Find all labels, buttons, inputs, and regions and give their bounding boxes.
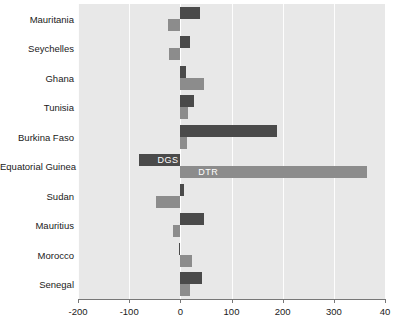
x-tick-label: 40 — [380, 306, 391, 317]
bar-dgs — [180, 213, 204, 225]
plot-area: DGSDTR — [78, 4, 385, 299]
category-label: Tunisia — [0, 102, 74, 113]
bar-dgs — [180, 125, 276, 137]
bar-dgs — [180, 7, 199, 19]
bar-chart: DGSDTR MauritaniaSeychellesGhanaTunisiaB… — [0, 0, 393, 329]
bar-dtr — [180, 78, 204, 90]
x-tick-mark — [232, 299, 233, 303]
category-label: Equatorial Guinea — [0, 161, 74, 172]
x-tick-mark — [78, 299, 79, 303]
bar-dgs — [180, 272, 202, 284]
category-label: Morocco — [0, 249, 74, 260]
gridline--200 — [78, 4, 79, 299]
bar-dgs — [180, 36, 189, 48]
bar-dtr — [180, 137, 187, 149]
x-tick-mark — [334, 299, 335, 303]
x-tick-label: 300 — [326, 306, 342, 317]
bar-dgs — [180, 95, 194, 107]
series-label-dgs: DGS — [157, 154, 178, 166]
x-tick-label: 200 — [275, 306, 291, 317]
gridline-300 — [334, 4, 335, 299]
category-label: Ghana — [0, 72, 74, 83]
category-label: Mauritania — [0, 13, 74, 24]
bar-dtr — [180, 255, 192, 267]
category-label: Mauritius — [0, 220, 74, 231]
category-axis-labels: MauritaniaSeychellesGhanaTunisiaBurkina … — [0, 4, 74, 299]
category-label: Sudan — [0, 190, 74, 201]
bar-dtr — [173, 225, 181, 237]
x-tick-label: 0 — [178, 306, 183, 317]
category-label: Senegal — [0, 279, 74, 290]
gridline-200 — [283, 4, 284, 299]
bar-dtr — [156, 196, 181, 208]
x-tick-mark — [129, 299, 130, 303]
x-tick-mark — [180, 299, 181, 303]
bar-dgs — [179, 243, 181, 255]
x-tick-label: -200 — [68, 306, 87, 317]
bar-dtr — [180, 107, 188, 119]
x-tick-label: -100 — [120, 306, 139, 317]
category-label: Seychelles — [0, 43, 74, 54]
x-tick-mark — [385, 299, 386, 303]
bar-dtr — [169, 48, 180, 60]
x-tick-mark — [283, 299, 284, 303]
bar-dgs — [180, 184, 184, 196]
gridline--100 — [129, 4, 130, 299]
bar-dgs — [180, 66, 186, 78]
x-tick-label: 100 — [224, 306, 240, 317]
category-label: Burkina Faso — [0, 131, 74, 142]
bar-dtr — [180, 284, 190, 296]
bar-dtr — [168, 19, 181, 31]
gridline-100 — [232, 4, 233, 299]
series-label-dtr: DTR — [198, 166, 218, 178]
